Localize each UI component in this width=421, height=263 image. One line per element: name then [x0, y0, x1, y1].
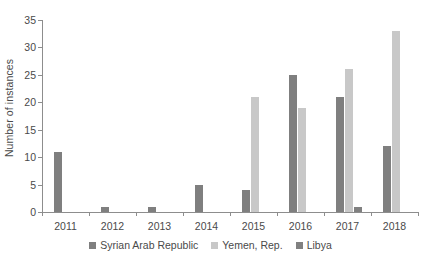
- bar: [54, 152, 62, 212]
- legend-item-label: Libya: [307, 239, 332, 251]
- y-tick-label: 10: [24, 151, 36, 163]
- y-tick-label: 0: [30, 206, 36, 218]
- plot-area: 05101520253035 2011201220132014201520162…: [42, 20, 418, 212]
- y-tick-label: 15: [24, 124, 36, 136]
- bar: [345, 69, 353, 212]
- legend-swatch-icon: [211, 242, 218, 249]
- bar-series-container: [42, 20, 418, 212]
- legend-item[interactable]: Syrian Arab Republic: [89, 239, 198, 251]
- x-tick-mark: [136, 212, 137, 216]
- x-tick-label: 2015: [242, 220, 265, 232]
- x-tick-mark: [371, 212, 372, 216]
- x-tick-mark: [418, 212, 419, 216]
- bar: [195, 185, 203, 212]
- bar: [392, 31, 400, 212]
- x-tick-label: 2011: [54, 220, 77, 232]
- y-tick-label: 30: [24, 41, 36, 53]
- bar: [336, 97, 344, 212]
- bar: [298, 108, 306, 212]
- x-tick-label: 2013: [148, 220, 171, 232]
- x-tick-label: 2012: [101, 220, 124, 232]
- bar: [354, 207, 362, 212]
- y-tick-label: 5: [30, 179, 36, 191]
- bar: [242, 190, 250, 212]
- y-tick-label: 20: [24, 96, 36, 108]
- x-tick-mark: [89, 212, 90, 216]
- legend-item[interactable]: Yemen, Rep.: [211, 239, 282, 251]
- x-tick-mark: [230, 212, 231, 216]
- bar: [148, 207, 156, 212]
- legend-swatch-icon: [89, 242, 96, 249]
- x-tick-mark: [324, 212, 325, 216]
- x-tick-label: 2018: [383, 220, 406, 232]
- x-tick-label: 2017: [336, 220, 359, 232]
- chart-legend: Syrian Arab RepublicYemen, Rep.Libya: [0, 239, 421, 251]
- y-tick-label: 25: [24, 69, 36, 81]
- legend-item[interactable]: Libya: [296, 239, 332, 251]
- bar: [383, 146, 391, 212]
- legend-item-label: Yemen, Rep.: [222, 239, 282, 251]
- bar: [251, 97, 259, 212]
- y-tick-label: 35: [24, 14, 36, 26]
- y-axis-title-text: Number of instances: [3, 58, 15, 156]
- x-tick-mark: [183, 212, 184, 216]
- x-tick-label: 2014: [195, 220, 218, 232]
- y-axis-title: Number of instances: [0, 0, 18, 215]
- bar: [289, 75, 297, 212]
- x-tick-mark: [277, 212, 278, 216]
- x-tick-label: 2016: [289, 220, 312, 232]
- legend-item-label: Syrian Arab Republic: [100, 239, 198, 251]
- bar-chart-figure: Number of instances 05101520253035 20112…: [0, 0, 421, 263]
- x-tick-mark: [42, 212, 43, 216]
- legend-swatch-icon: [296, 242, 303, 249]
- bar: [101, 207, 109, 212]
